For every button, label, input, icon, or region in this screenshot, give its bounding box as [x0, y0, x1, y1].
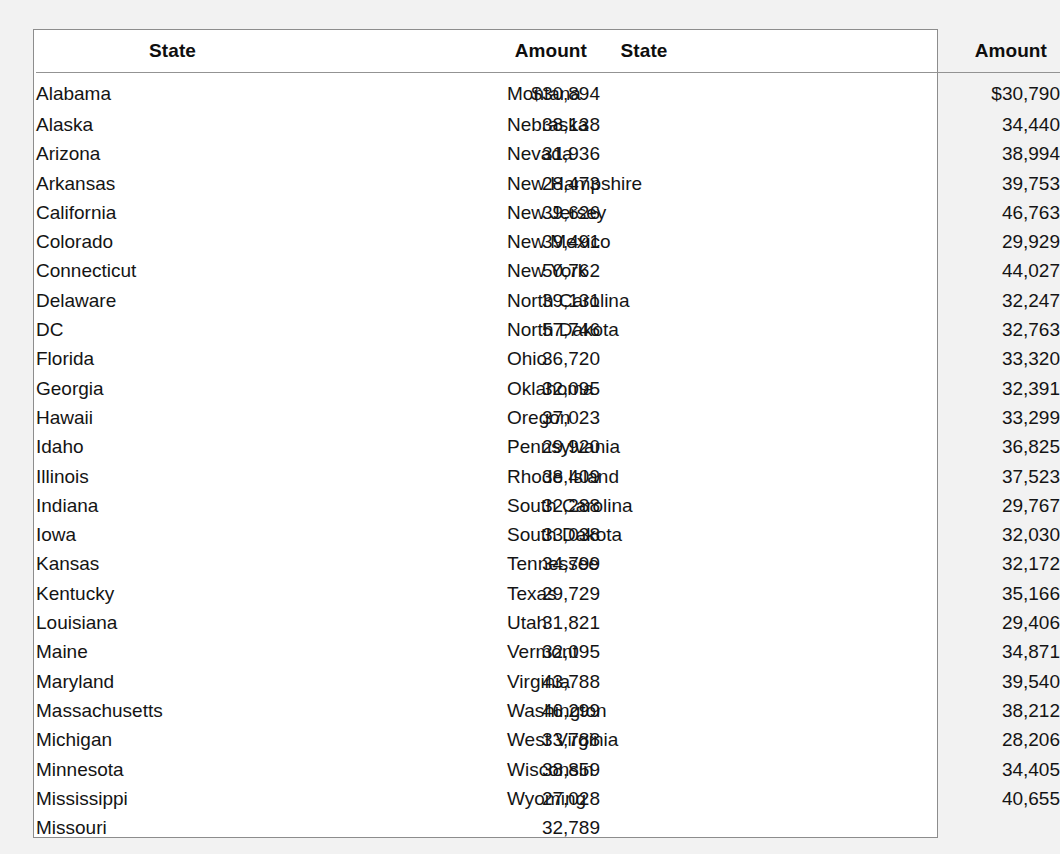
- cell-state: Delaware: [36, 286, 425, 315]
- cell-state: Louisiana: [36, 608, 425, 637]
- cell-state: Maine: [36, 637, 425, 666]
- cell-amount: 32,172: [891, 549, 1060, 578]
- scan-caption-remnant: [0, 0, 968, 14]
- column-header-amount: Amount: [891, 30, 1060, 73]
- cell-state: Massachusetts: [36, 696, 425, 725]
- table-row: New Jersey46,763: [507, 198, 1060, 227]
- cell-amount: 38,212: [891, 696, 1060, 725]
- cell-amount: 40,655: [891, 784, 1060, 813]
- cell-state: Connecticut: [36, 256, 425, 285]
- cell-amount: 35,166: [891, 579, 1060, 608]
- table-row: Pennsylvania36,825: [507, 432, 1060, 461]
- cell-amount: 29,406: [891, 608, 1060, 637]
- cell-state: Michigan: [36, 725, 425, 754]
- cell-amount: 29,767: [891, 491, 1060, 520]
- cell-state: Virginia: [507, 667, 891, 696]
- cell-state: Wyoming: [507, 784, 891, 813]
- table-row: Nebraska34,440: [507, 110, 1060, 139]
- cell-amount: 32,391: [891, 374, 1060, 403]
- cell-amount: 32,763: [891, 315, 1060, 344]
- cell-state: Kansas: [36, 549, 425, 578]
- table-row: South Carolina29,767: [507, 491, 1060, 520]
- table-column-left: State Amount Alabama$30,894Alaska38,138A…: [34, 30, 471, 837]
- cell-state: Oregon: [507, 403, 891, 432]
- cell-amount: 44,027: [891, 256, 1060, 285]
- cell-state: Wisconsin: [507, 755, 891, 784]
- column-header-state: State: [507, 30, 891, 73]
- cell-state: New Mexico: [507, 227, 891, 256]
- cell-state: DC: [36, 315, 425, 344]
- cell-state: Nevada: [507, 139, 891, 168]
- table-row: Tennessee32,172: [507, 549, 1060, 578]
- cell-state: Ohio: [507, 344, 891, 373]
- table-row: Oregon33,299: [507, 403, 1060, 432]
- table-row: New York44,027: [507, 256, 1060, 285]
- cell-state: Washington: [507, 696, 891, 725]
- cell-state: Hawaii: [36, 403, 425, 432]
- table-row: Nevada38,994: [507, 139, 1060, 168]
- table-row: Utah29,406: [507, 608, 1060, 637]
- cell-state: Texas: [507, 579, 891, 608]
- cell-amount: 38,994: [891, 139, 1060, 168]
- cell-state: Pennsylvania: [507, 432, 891, 461]
- table-row: South Dakota32,030: [507, 520, 1060, 549]
- cell-state: Florida: [36, 344, 425, 373]
- table-row: Texas35,166: [507, 579, 1060, 608]
- cell-state: New Hampshire: [507, 169, 891, 198]
- cell-amount: 34,440: [891, 110, 1060, 139]
- cell-amount: 34,405: [891, 755, 1060, 784]
- cell-amount: 33,299: [891, 403, 1060, 432]
- cell-state: Indiana: [36, 491, 425, 520]
- cell-state: Colorado: [36, 227, 425, 256]
- table-row: Montana$30,790: [507, 73, 1060, 111]
- cell-amount: 37,523: [891, 462, 1060, 491]
- cell-state: Mississippi: [36, 784, 425, 813]
- cell-state: Kentucky: [36, 579, 425, 608]
- cell-state: Alabama: [36, 73, 425, 111]
- state-amount-table: State Amount Montana$30,790Nebraska34,44…: [507, 30, 1060, 813]
- cell-state: North Carolina: [507, 286, 891, 315]
- cell-state: Utah: [507, 608, 891, 637]
- cell-state: Idaho: [36, 432, 425, 461]
- table-header: State Amount: [507, 30, 1060, 73]
- cell-amount: 46,763: [891, 198, 1060, 227]
- table-row: Ohio33,320: [507, 344, 1060, 373]
- cell-state: New York: [507, 256, 891, 285]
- cell-state: Georgia: [36, 374, 425, 403]
- cell-state: Illinois: [36, 462, 425, 491]
- table-row: Vermont34,871: [507, 637, 1060, 666]
- cell-state: Rhode Island: [507, 462, 891, 491]
- table-row: West Virginia28,206: [507, 725, 1060, 754]
- column-header-state: State: [36, 30, 425, 73]
- cell-state: Minnesota: [36, 755, 425, 784]
- table-row: North Dakota32,763: [507, 315, 1060, 344]
- state-amount-table-panel: State Amount Alabama$30,894Alaska38,138A…: [33, 29, 938, 838]
- cell-amount: 32,247: [891, 286, 1060, 315]
- table-row: Virginia39,540: [507, 667, 1060, 696]
- cell-state: South Dakota: [507, 520, 891, 549]
- cell-state: Iowa: [36, 520, 425, 549]
- table-row: Wisconsin34,405: [507, 755, 1060, 784]
- cell-state: New Jersey: [507, 198, 891, 227]
- table-body: Montana$30,790Nebraska34,440Nevada38,994…: [507, 73, 1060, 814]
- cell-amount: 36,825: [891, 432, 1060, 461]
- cell-amount: 29,929: [891, 227, 1060, 256]
- table-row: Rhode Island37,523: [507, 462, 1060, 491]
- cell-amount: $30,790: [891, 73, 1060, 111]
- cell-state: West Virginia: [507, 725, 891, 754]
- table-row: North Carolina32,247: [507, 286, 1060, 315]
- cell-amount: 34,871: [891, 637, 1060, 666]
- cell-amount: 39,540: [891, 667, 1060, 696]
- table-row: Oklahoma32,391: [507, 374, 1060, 403]
- cell-state: Tennessee: [507, 549, 891, 578]
- cell-state: California: [36, 198, 425, 227]
- table-row: Washington38,212: [507, 696, 1060, 725]
- cell-amount: 32,030: [891, 520, 1060, 549]
- cell-state: Nebraska: [507, 110, 891, 139]
- cell-amount: 39,753: [891, 169, 1060, 198]
- cell-state: Arkansas: [36, 169, 425, 198]
- cell-state: Maryland: [36, 667, 425, 696]
- table-column-right: State Amount Montana$30,790Nebraska34,44…: [471, 30, 937, 837]
- cell-state: Oklahoma: [507, 374, 891, 403]
- cell-state: Missouri: [36, 813, 425, 842]
